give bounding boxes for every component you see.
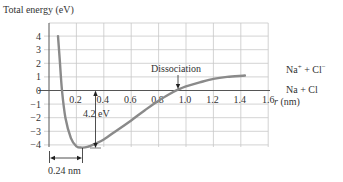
distance-arrowhead-right-icon (77, 156, 82, 160)
x-tick-label: 0.2 (69, 94, 82, 105)
ion-pair-label: Na+ + Cl− (286, 63, 326, 75)
y-tick-label: −3 (30, 126, 41, 137)
x-tick-label: 1.2 (206, 94, 219, 105)
y-tick-label: −1 (30, 99, 41, 110)
y-tick-label: −4 (30, 139, 41, 150)
y-tick-label: 3 (36, 44, 41, 55)
energy-chart: Total energy (eV) 43210−1−2−3−4 0.20.40.… (0, 0, 343, 182)
x-tick-label: 1.0 (179, 94, 192, 105)
grid (44, 23, 268, 147)
y-tick-label: 2 (36, 58, 41, 69)
y-tick-label: −2 (30, 112, 41, 123)
y-tick-label: 0 (36, 85, 41, 96)
x-axis-label: r (nm) (274, 96, 300, 108)
y-tick-label: 1 (36, 71, 41, 82)
distance-label: 0.24 nm (48, 165, 81, 176)
energy-gap-label: 4.2 eV (83, 108, 110, 119)
x-tick-label: 1.4 (234, 94, 247, 105)
y-axis-label: Total energy (eV) (3, 4, 74, 16)
distance-arrowhead-left-icon (50, 156, 55, 160)
neutral-pair-label: Na + Cl (286, 84, 318, 95)
dissociation-label: Dissociation (151, 63, 201, 74)
x-tick-labels: 0.20.40.60.81.01.21.41.6 (69, 94, 274, 105)
x-tick-label: 0.4 (97, 94, 110, 105)
x-tick-label: 0.6 (124, 94, 137, 105)
y-tick-labels: 43210−1−2−3−4 (30, 31, 41, 151)
x-tick-label: 1.6 (262, 94, 275, 105)
y-tick-label: 4 (36, 31, 41, 42)
